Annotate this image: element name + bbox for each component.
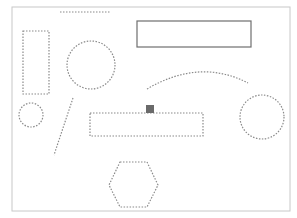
solid-rectangle [137, 21, 251, 47]
dashed-arc [147, 72, 248, 89]
right-dashed-circle [240, 95, 284, 139]
dashed-hexagon [109, 162, 158, 207]
left-dashed-rectangle [23, 31, 49, 94]
diagram-canvas [0, 0, 297, 218]
small-dashed-circle [19, 103, 43, 127]
large-dashed-circle [67, 41, 115, 89]
diagonal-dashed-line [54, 98, 73, 155]
center-dashed-rectangle [90, 113, 203, 136]
marker-square[interactable] [146, 105, 154, 113]
